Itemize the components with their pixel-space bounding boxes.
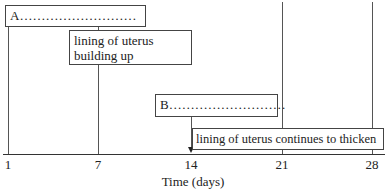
lining-building-line1: lining of uterus — [74, 33, 187, 48]
label-b-text: B……………………… — [160, 97, 286, 112]
tick-28: 28 — [366, 157, 379, 173]
lining-thicken-text: lining of uterus continues to thicken — [196, 132, 376, 146]
label-box-a: A……………………… — [5, 5, 146, 27]
lining-building-box: lining of uterus building up — [69, 30, 192, 65]
time-axis — [3, 154, 385, 155]
tick-21: 21 — [276, 157, 289, 173]
tick-1: 1 — [5, 157, 12, 173]
label-box-b: B……………………… — [155, 94, 278, 117]
tick-7: 7 — [95, 157, 102, 173]
label-a-text: A……………………… — [10, 8, 136, 23]
axis-label: Time (days) — [162, 174, 225, 190]
day1-line — [8, 26, 9, 154]
tick-14: 14 — [185, 157, 198, 173]
lining-building-line2: building up — [74, 48, 187, 63]
lining-thicken-box: lining of uterus continues to thicken — [192, 128, 384, 150]
